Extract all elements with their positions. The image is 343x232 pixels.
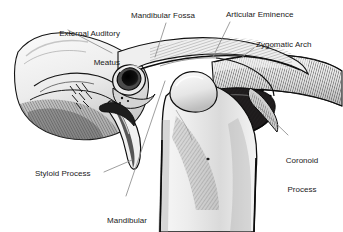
label-coronoid-line2: Process <box>274 185 330 195</box>
label-articular-eminence: Articular Eminence <box>226 10 294 20</box>
mandibular-condyle <box>170 72 217 112</box>
label-mandibular-fossa: Mandibular Fossa <box>131 11 195 21</box>
label-coronoid-process: Coronoid Process <box>274 137 330 213</box>
leader-styloid-process <box>104 160 132 172</box>
label-external-auditory-meatus: External Auditory Meatus <box>14 10 120 86</box>
anatomy-figure: External Auditory Meatus Mandibular Foss… <box>0 0 343 232</box>
label-styloid-process: Styloid Process <box>35 169 90 179</box>
mandibular-foramen <box>206 158 209 160</box>
label-condyle-line1: Mandibular <box>96 216 158 226</box>
label-mandibular-condyle: Mandibular Condyle <box>96 197 158 232</box>
label-eam-line2: Meatus <box>14 58 120 68</box>
label-eam-line1: External Auditory <box>14 29 120 39</box>
label-coronoid-line1: Coronoid <box>274 156 330 166</box>
label-zygomatic-arch: Zygomatic Arch <box>256 40 311 50</box>
